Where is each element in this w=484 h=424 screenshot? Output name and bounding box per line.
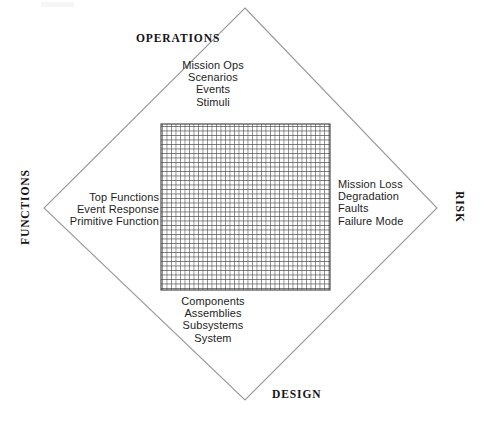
list-item: Mission Ops: [182, 59, 244, 71]
list-item: Event Response: [70, 203, 159, 215]
risk-items: Mission Loss Degradation Faults Failure …: [338, 178, 403, 227]
list-item: Mission Loss: [338, 178, 403, 190]
design-items: Components Assemblies Subsystems System: [181, 295, 244, 344]
list-item: Degradation: [338, 190, 403, 202]
center-mesh-grid: [161, 124, 330, 290]
list-item: Primitive Function: [70, 215, 159, 227]
axis-label-design: DESIGN: [272, 388, 322, 400]
functions-items: Top Functions Event Response Primitive F…: [70, 191, 159, 228]
list-item: Events: [182, 83, 244, 95]
list-item: Stimuli: [182, 96, 244, 108]
list-item: Failure Mode: [338, 215, 403, 227]
list-item: Components: [181, 295, 244, 307]
axis-label-operations: OPERATIONS: [136, 32, 220, 44]
list-item: Assemblies: [181, 307, 244, 319]
list-item: Scenarios: [182, 71, 244, 83]
list-item: Faults: [338, 202, 403, 214]
axis-label-risk: RISK: [454, 191, 466, 223]
list-item: Top Functions: [70, 191, 159, 203]
list-item: System: [181, 332, 244, 344]
diagram-canvas: OPERATIONS DESIGN FUNCTIONS RISK Mission…: [0, 0, 484, 424]
operations-items: Mission Ops Scenarios Events Stimuli: [182, 59, 244, 108]
axis-label-functions: FUNCTIONS: [19, 169, 31, 245]
list-item: Subsystems: [181, 319, 244, 331]
